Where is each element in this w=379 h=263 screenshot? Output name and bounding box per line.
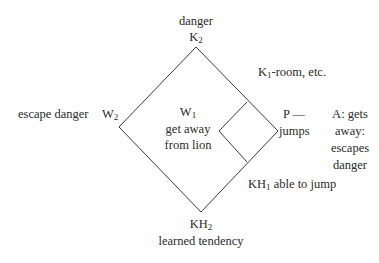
node-kh2: KH2 [176,217,226,232]
bottom-caption: learned tendency [146,234,256,249]
node-k1-text: -room, etc. [272,65,327,79]
top-caption: danger [170,14,222,29]
node-w2-sub: 2 [114,112,119,122]
outcome-line4: danger [322,158,378,173]
left-caption: escape danger [18,107,88,122]
center-line2: from lion [150,138,226,153]
outcome-line2: away: [322,124,378,139]
node-k2-sub: 2 [198,35,203,45]
outcome-line3: escapes [322,141,378,156]
node-kh1: KH1 able to jump [248,177,336,192]
node-k1-label: K [258,65,267,79]
node-w1: W1 [160,105,216,120]
node-w2: W2 [102,107,118,122]
node-kh1-text: able to jump [271,177,337,191]
node-w1-label: W [180,105,192,119]
node-k2: K2 [176,30,216,45]
node-kh2-sub: 2 [208,222,213,232]
outcome-line1: A: gets [322,107,378,122]
node-w2-label: W [102,107,114,121]
node-k1: K1-room, etc. [258,65,326,80]
center-line1: get away [150,122,226,137]
node-kh2-label: KH [190,217,208,231]
right-line2: jumps [279,124,310,139]
node-kh1-label: KH [248,177,266,191]
node-w1-sub: 1 [192,110,197,120]
node-k2-label: K [189,30,198,44]
right-line1: P — [283,107,305,122]
